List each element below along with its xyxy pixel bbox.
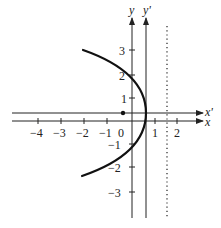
y-tick-label: 1: [121, 92, 127, 106]
x-axis-label: x: [204, 115, 211, 129]
y-tick-label: −1: [108, 138, 121, 152]
x-tick-label: −3: [53, 126, 66, 140]
x-tick-label: −2: [76, 126, 89, 140]
x-tick-label: −4: [30, 126, 43, 140]
x-tick-label: 2: [174, 126, 180, 140]
y-prime-axis-label: y': [142, 3, 151, 17]
focus-point: [121, 111, 125, 115]
y-tick-label: 3: [119, 44, 125, 58]
y-axis-label: y: [128, 3, 135, 17]
coordinate-diagram: −4 −3 −2 −1 0 1 2 3 2 1 −1 −2 −3 y y' x'…: [0, 0, 221, 228]
y-tick-label: −3: [108, 186, 121, 200]
x-tick-label: 1: [152, 126, 158, 140]
